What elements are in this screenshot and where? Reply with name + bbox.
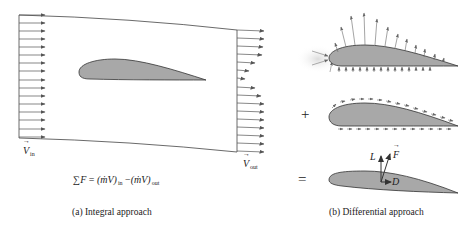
force-label: F (393, 149, 399, 160)
plus-operator: + (301, 106, 309, 123)
pressure-distribution-row (296, 13, 458, 73)
momentum-equation: ∑F = (ṁV)in −(ṁV)out (73, 174, 159, 186)
lift-label: L (370, 151, 376, 162)
diagram-canvas (0, 0, 473, 231)
airfoil-pressure (329, 45, 458, 66)
equals-operator: = (298, 171, 306, 188)
outlet-velocity-label: Vout (243, 158, 258, 170)
shear-stress-row (329, 99, 458, 129)
airfoil-integral (79, 59, 206, 80)
control-volume (19, 15, 237, 152)
pressure-arrows-lower (339, 67, 430, 72)
inlet-velocity-arrows (19, 15, 45, 137)
caption-integral-approach: (a) Integral approach (72, 207, 152, 217)
inlet-velocity-label: Vin (23, 145, 35, 157)
equation-lhs: ∑F (73, 174, 86, 185)
drag-label: D (392, 176, 399, 187)
caption-differential-approach: (b) Differential approach (329, 207, 424, 217)
outlet-velocity-arrows (237, 30, 264, 152)
airfoil-shear (329, 103, 458, 126)
